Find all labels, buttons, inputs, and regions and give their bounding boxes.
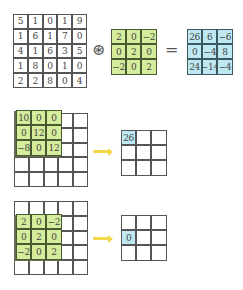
result-cell xyxy=(136,245,151,260)
kernel-matrix: 20−2020−202 xyxy=(111,29,157,75)
kernel-cell: −2 xyxy=(141,29,156,44)
grid-cell xyxy=(44,157,59,172)
grid-cell xyxy=(73,216,88,231)
input-matrix: 5101916170416351801022804 xyxy=(13,14,87,88)
result-cell xyxy=(121,245,136,260)
grid-cell xyxy=(29,157,44,172)
input-cell: 8 xyxy=(28,58,43,73)
step1-kernel-overlay: 10000120−8012 xyxy=(16,110,62,156)
result-cell xyxy=(151,130,166,145)
result-cell xyxy=(136,145,151,160)
grid-cell xyxy=(58,172,73,187)
result-cell xyxy=(121,215,136,230)
input-cell: 5 xyxy=(13,14,28,29)
grid-cell xyxy=(73,201,88,216)
input-cell: 4 xyxy=(13,44,28,59)
input-cell: 4 xyxy=(72,73,87,88)
overlay-cell: −2 xyxy=(16,244,31,259)
overlay-cell: 0 xyxy=(31,110,46,125)
overlay-cell: 10 xyxy=(16,110,31,125)
result-cell xyxy=(136,230,151,245)
kernel-cell: 0 xyxy=(126,59,141,74)
overlay-cell: 0 xyxy=(31,244,46,259)
grid-cell xyxy=(29,172,44,187)
overlay-cell: 0 xyxy=(31,140,46,155)
output-cell: 0 xyxy=(187,44,202,59)
input-cell: 0 xyxy=(43,58,58,73)
grid-cell xyxy=(14,260,29,275)
input-cell: 6 xyxy=(28,29,43,44)
output-cell: 26 xyxy=(187,29,202,44)
result-cell: 0 xyxy=(121,230,136,245)
overlay-cell: 0 xyxy=(46,229,61,244)
grid-cell xyxy=(58,260,73,275)
result-cell xyxy=(151,245,166,260)
input-cell: 2 xyxy=(13,73,28,88)
overlay-cell: 0 xyxy=(46,110,61,125)
grid-cell xyxy=(44,260,59,275)
result-cell xyxy=(121,160,136,175)
grid-cell xyxy=(29,260,44,275)
output-cell: −4 xyxy=(217,59,232,74)
kernel-cell: −2 xyxy=(111,59,126,74)
input-cell: 8 xyxy=(43,73,58,88)
grid-cell xyxy=(14,157,29,172)
convolution-operator: ⊛ xyxy=(92,40,105,59)
input-cell: 0 xyxy=(72,29,87,44)
grid-cell xyxy=(14,172,29,187)
output-matrix: 266−60−4824−14−4 xyxy=(187,29,233,75)
result-cell xyxy=(121,145,136,160)
result-cell xyxy=(151,160,166,175)
overlay-cell: −2 xyxy=(46,214,61,229)
output-cell: 8 xyxy=(217,44,232,59)
result-cell: 26 xyxy=(121,130,136,145)
grid-cell xyxy=(73,172,88,187)
result-cell xyxy=(136,160,151,175)
input-cell: 0 xyxy=(57,73,72,88)
input-cell: 0 xyxy=(43,14,58,29)
kernel-cell: 0 xyxy=(111,44,126,59)
kernel-cell: 2 xyxy=(111,29,126,44)
equals-sign: = xyxy=(165,40,178,59)
grid-cell xyxy=(73,157,88,172)
overlay-cell: 0 xyxy=(16,229,31,244)
input-cell: 1 xyxy=(28,44,43,59)
input-cell: 7 xyxy=(57,29,72,44)
input-cell: 1 xyxy=(13,58,28,73)
grid-cell xyxy=(44,172,59,187)
grid-cell xyxy=(73,231,88,246)
grid-cell xyxy=(73,245,88,260)
grid-cell xyxy=(58,157,73,172)
input-cell: 1 xyxy=(28,14,43,29)
step2-arrow-icon xyxy=(93,237,109,240)
grid-cell xyxy=(73,113,88,128)
overlay-cell: 2 xyxy=(16,214,31,229)
overlay-cell: 2 xyxy=(31,229,46,244)
input-cell: 1 xyxy=(57,14,72,29)
result-cell xyxy=(151,215,166,230)
output-cell: −14 xyxy=(202,59,217,74)
overlay-cell: −8 xyxy=(16,140,31,155)
grid-cell xyxy=(73,143,88,158)
grid-cell xyxy=(73,128,88,143)
output-cell: −6 xyxy=(217,29,232,44)
step2-kernel-overlay: 20−2020−202 xyxy=(16,214,62,260)
input-cell: 1 xyxy=(43,29,58,44)
result-cell xyxy=(136,215,151,230)
input-cell: 2 xyxy=(28,73,43,88)
result-cell xyxy=(151,230,166,245)
kernel-cell: 2 xyxy=(141,59,156,74)
overlay-cell: 12 xyxy=(31,125,46,140)
kernel-cell: 2 xyxy=(126,44,141,59)
step1-result-grid: 26 xyxy=(121,130,167,176)
overlay-cell: 0 xyxy=(46,125,61,140)
result-cell xyxy=(136,130,151,145)
input-cell: 5 xyxy=(72,44,87,59)
input-cell: 1 xyxy=(57,58,72,73)
kernel-cell: 0 xyxy=(141,44,156,59)
input-cell: 3 xyxy=(57,44,72,59)
grid-cell xyxy=(73,260,88,275)
overlay-cell: 0 xyxy=(16,125,31,140)
input-cell: 6 xyxy=(43,44,58,59)
step1-arrow-icon xyxy=(93,150,109,153)
